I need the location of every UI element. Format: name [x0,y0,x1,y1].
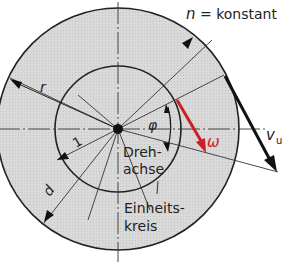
drehachse-label-1: Dreh- [123,144,162,160]
einheitskreis-label-2: kreis [124,218,157,234]
vu-subscript: u [276,135,282,146]
n-label: n [186,5,196,23]
phi-label: φ [148,117,158,133]
einheitskreis-label-1: Einheits- [124,200,185,216]
rotation-axis-dot [113,124,123,134]
drehachse-label-2: achse [123,161,164,177]
konstant-label: = konstant [200,6,277,22]
vu-label: v [266,126,276,144]
omega-label: ω [207,133,220,151]
rotation-diagram: n = konstant r 1 d φ ω v u Dreh- achse E… [0,0,294,272]
